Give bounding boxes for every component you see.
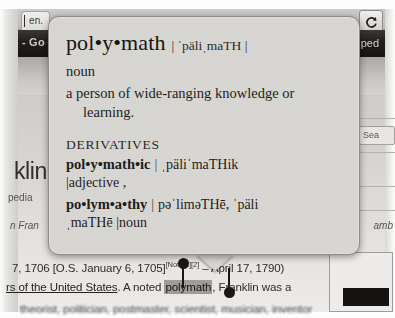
article-italic-right-fragment: amb (374, 220, 393, 231)
derivative-part-of-speech: |adjective , (66, 174, 343, 192)
sidebar-divider (357, 210, 395, 211)
dictionary-definition-line2: learning. (66, 103, 334, 123)
page-search-input[interactable]: Sea (359, 126, 395, 145)
selection-end-dot (224, 287, 235, 298)
article-link-founding-fathers[interactable]: rs of the United States (6, 281, 117, 293)
dictionary-headword-row: pol•y•math| ˈpäliˌmaTH | (66, 31, 343, 55)
dictionary-derivatives-label: DERIVATIVES (66, 137, 343, 153)
dictionary-derivative-entry: pol•y•math•ic|ˌpäliˈmaTHik |adjective , (66, 155, 343, 192)
dictionary-popup-tail (196, 254, 234, 271)
screenshot-root: en. - Go ped klin pedia n Fran amb Se (0, 0, 395, 318)
article-italic-left-fragment: n Fran (10, 220, 39, 231)
article-line-dates: 7, 1706 [O.S. January 6, 1705][Note 1][2… (12, 260, 284, 274)
dictionary-popup-content: pol•y•math| ˈpäliˌmaTH | noun a person o… (49, 17, 359, 254)
screen-top-strip (0, 0, 395, 9)
derivative-part-of-speech: ˌmaTHē |noun (66, 214, 343, 232)
article-line1-dates-a: 7, 1706 [O.S. January 6, 1705] (12, 262, 166, 274)
dictionary-popup: pol•y•math| ˈpäliˌmaTH | noun a person o… (48, 16, 360, 255)
dictionary-pronunciation: | ˈpäliˌmaTH | (172, 38, 248, 53)
browser-tab[interactable]: en. (21, 11, 50, 30)
derivative-separator: | (155, 157, 158, 172)
sidebar-divider (357, 118, 395, 119)
selection-end-bar (228, 268, 230, 289)
derivative-pronunciation: ˌpäliˈmaTHik (161, 157, 238, 172)
search-bar-left-text: - Go (22, 36, 45, 48)
sidebar-divider (357, 186, 395, 187)
dictionary-part-of-speech: noun (66, 63, 343, 80)
article-line-occupations: theorist, politician, postmaster, scient… (20, 303, 312, 315)
dictionary-headword: pol•y•math (66, 30, 166, 55)
page-search-placeholder: Sea (363, 130, 379, 140)
article-line-polymath: rs of the United States. A noted polymat… (6, 281, 291, 293)
article-line2-a: . A noted (117, 281, 164, 293)
reload-icon (365, 16, 378, 29)
derivative-pronunciation: pəˈliməTHē, ˈpäli (158, 197, 258, 212)
dictionary-definition-line1: a person of wide-ranging knowledge or (66, 85, 294, 101)
selection-start-bar (182, 267, 184, 288)
derivative-separator: | (151, 197, 154, 212)
dictionary-definition: a person of wide-ranging knowledge or le… (66, 84, 334, 123)
selected-word-polymath[interactable]: polymath (164, 280, 212, 294)
sidebar-divider (357, 152, 395, 153)
search-bar-right-text: ped (361, 37, 379, 49)
wikipedia-label-fragment: pedia (8, 192, 32, 203)
article-heading-fragment: klin (14, 158, 47, 185)
dictionary-derivative-entry: po•lym•a•thy|pəˈliməTHē, ˈpäli ˌmaTHē |n… (66, 195, 343, 232)
derivative-word: pol•y•math•ic (66, 156, 151, 172)
derivative-word: po•lym•a•thy (66, 196, 147, 212)
